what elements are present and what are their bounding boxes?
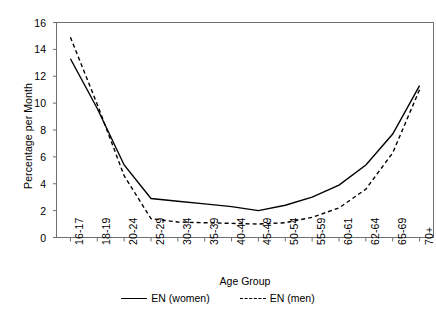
x-tick-marks bbox=[70, 238, 419, 242]
legend-item-en-men: EN (men) bbox=[240, 292, 315, 304]
legend-item-en-women: EN (women) bbox=[121, 292, 209, 304]
legend-label-en-men: EN (men) bbox=[270, 292, 315, 304]
chart-legend: EN (women) EN (men) bbox=[0, 292, 436, 304]
legend-label-en-women: EN (women) bbox=[151, 292, 209, 304]
legend-swatch-solid-line bbox=[121, 298, 147, 299]
line-chart: Percentage per Month 0246810121416 16-17… bbox=[0, 0, 436, 319]
plot-area bbox=[0, 0, 436, 319]
legend-swatch-dashed-line bbox=[240, 298, 266, 299]
plot-frame bbox=[57, 23, 434, 238]
x-axis-title: Age Group bbox=[55, 275, 435, 287]
